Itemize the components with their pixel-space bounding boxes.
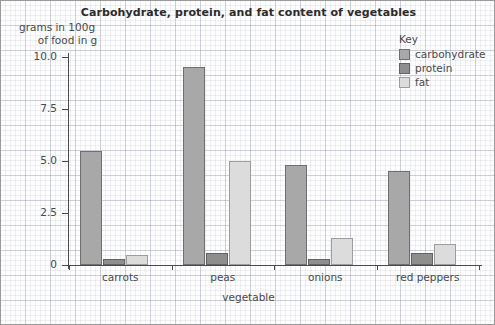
y-tick-label: 0	[1, 258, 57, 270]
x-axis-line	[68, 265, 482, 266]
legend-label: carbohydrate	[415, 48, 485, 60]
y-axis-title-line-1: grams in 100g	[19, 21, 124, 34]
x-tick-mark	[377, 265, 378, 270]
bar-peas-fat	[229, 161, 251, 265]
bar-onions-protein	[308, 259, 330, 265]
x-tick-mark	[274, 265, 275, 270]
legend-title: Key	[399, 33, 485, 45]
legend: Key carbohydrateproteinfat	[399, 33, 485, 90]
bar-onions-fat	[331, 238, 353, 265]
bar-peas-protein	[206, 253, 228, 265]
y-tick-mark	[62, 109, 69, 110]
x-category-label: onions	[275, 271, 375, 283]
x-axis-title: vegetable	[1, 291, 495, 303]
x-tick-mark	[69, 265, 70, 270]
legend-label: protein	[415, 62, 452, 74]
legend-item-protein[interactable]: protein	[399, 62, 485, 74]
page-title: Carbohydrate, protein, and fat content o…	[1, 6, 495, 19]
bar-carrots-fat	[126, 255, 148, 265]
y-axis-title: grams in 100g of food in g	[19, 21, 124, 47]
bar-red-peppers-fat	[434, 244, 456, 265]
bar-carrots-carbohydrate	[80, 151, 102, 265]
y-tick-label: 10.0	[1, 50, 57, 62]
y-tick-label: 5.0	[1, 154, 57, 166]
x-category-label: carrots	[70, 271, 170, 283]
legend-swatch-carbohydrate-icon	[399, 49, 410, 60]
x-tick-mark	[172, 265, 173, 270]
bar-red-peppers-protein	[411, 253, 433, 265]
x-category-label: red peppers	[378, 271, 478, 283]
legend-swatch-protein-icon	[399, 63, 410, 74]
y-axis-title-line-2: of food in g	[19, 34, 124, 47]
legend-swatch-fat-icon	[399, 77, 410, 88]
y-tick-mark	[62, 161, 69, 162]
bar-red-peppers-carbohydrate	[388, 171, 410, 265]
y-tick-mark	[62, 57, 69, 58]
chart-page: Carbohydrate, protein, and fat content o…	[0, 0, 495, 325]
legend-item-fat[interactable]: fat	[399, 76, 485, 88]
bar-onions-carbohydrate	[285, 165, 307, 265]
y-tick-label: 2.5	[1, 206, 57, 218]
y-tick-mark	[62, 213, 69, 214]
x-tick-mark	[479, 265, 480, 270]
y-tick-label: 7.5	[1, 102, 57, 114]
x-category-label: peas	[173, 271, 273, 283]
bar-peas-carbohydrate	[183, 67, 205, 265]
y-tick-mark	[62, 265, 69, 266]
legend-item-carbohydrate[interactable]: carbohydrate	[399, 48, 485, 60]
bar-carrots-protein	[103, 259, 125, 265]
legend-label: fat	[415, 76, 429, 88]
